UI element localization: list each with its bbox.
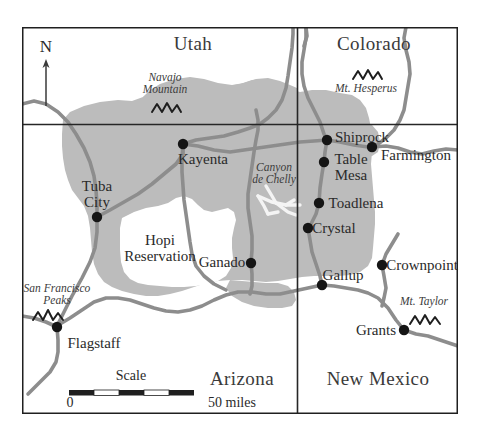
city-dot-farmington xyxy=(367,142,377,152)
city-dot-tuba-city xyxy=(92,212,102,222)
city-dot-kayenta xyxy=(178,139,188,149)
city-dot-crownpoint xyxy=(377,260,387,270)
city-dot-flagstaff xyxy=(52,322,62,332)
scale-bar-graphic xyxy=(69,390,194,396)
map-graphics xyxy=(0,0,481,446)
reservation-utah-lobe xyxy=(143,77,297,124)
city-dot-gallup xyxy=(317,280,327,290)
city-dot-toadlena xyxy=(314,198,324,208)
city-dot-crystal xyxy=(303,223,313,233)
map-container: N Utah Colorado Arizona New Mexico Hopi … xyxy=(0,0,481,446)
city-dot-table-mesa xyxy=(319,157,329,167)
city-dot-shiprock xyxy=(322,135,332,145)
city-dot-ganado xyxy=(246,258,256,268)
city-dot-grants xyxy=(399,325,409,335)
